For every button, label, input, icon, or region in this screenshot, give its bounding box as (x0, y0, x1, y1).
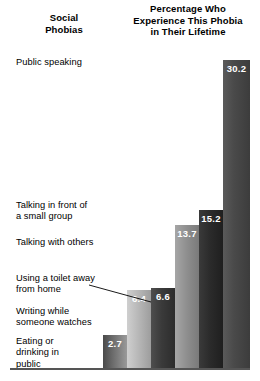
category-label-public-speaking: Public speaking (16, 57, 120, 68)
bar-value-label: 6.6 (151, 291, 175, 302)
bar-fill (175, 225, 199, 368)
bar-value-label: 6.4 (127, 293, 151, 304)
bar-value-label: 30.2 (223, 63, 250, 74)
category-label-eating-or-drinking: Eating or drinking in public (16, 336, 120, 370)
phobia-bar-chart: Social Phobias Percentage Who Experience… (0, 0, 260, 381)
bar-value-label: 13.7 (175, 228, 199, 239)
category-label-writing-while-watched: Writing while someone watches (16, 306, 120, 329)
bar-writing-while-someone-watches: 6.4 (127, 290, 151, 368)
bar-using-a-toilet-away-from-home: 6.6 (151, 288, 175, 368)
baseline-axis (10, 368, 250, 370)
category-label-talking-with-others: Talking with others (16, 237, 120, 248)
bar-fill (199, 210, 223, 368)
bar-fill (223, 60, 250, 368)
bar-talking-with-others: 13.7 (175, 225, 199, 368)
category-label-using-a-toilet: Using a toilet away from home (16, 273, 120, 296)
bar-public-speaking: 30.2 (223, 60, 250, 368)
bar-value-label: 15.2 (199, 213, 223, 224)
bar-talking-in-front-of-a-small-group: 15.2 (199, 210, 223, 368)
category-label-small-group: Talking in front of a small group (16, 200, 120, 223)
